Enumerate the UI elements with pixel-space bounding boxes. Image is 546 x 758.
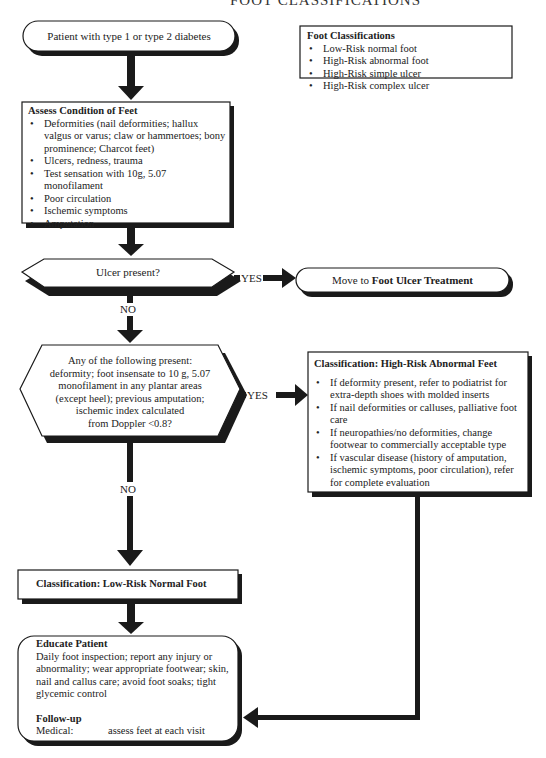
high-risk-item: If vascular disease (history of amputati… [314, 452, 524, 490]
low-risk-title: Classification: Low-Risk Normal Foot [36, 578, 236, 591]
decision-ulcer-question: Ulcer present? [44, 266, 212, 279]
followup-title: Follow-up [36, 713, 234, 726]
educate-content: Educate Patient Daily foot inspection; r… [36, 638, 234, 738]
assess-title: Assess Condition of Feet [28, 105, 226, 118]
ulcer-treatment-label: Move to Foot Ulcer Treatment [296, 274, 509, 287]
assess-item: Ischemic symptoms [28, 205, 226, 218]
assess-content: Assess Condition of Feet Deformities (na… [28, 105, 226, 230]
legend-item: Low-Risk normal foot [307, 43, 507, 56]
question-line: (except heel); previous amputation; [42, 393, 218, 406]
decision-ulcer-yes-label: YES [241, 272, 262, 285]
start-label: Patient with type 1 or type 2 diabetes [23, 30, 235, 43]
high-risk-content: Classification: High-Risk Abnormal Feet … [314, 358, 524, 489]
decision-ulcer-no-label: NO [120, 303, 136, 316]
ulcer-treatment-link[interactable]: Foot Ulcer Treatment [372, 274, 473, 286]
legend-item: High-Risk abnormal foot [307, 55, 507, 68]
legend-title: Foot Classifications [307, 30, 507, 43]
assess-item: Poor circulation [28, 193, 226, 206]
educate-title: Educate Patient [36, 638, 234, 651]
high-risk-item: If deformity present, refer to podiatris… [314, 377, 524, 402]
question-line: Any of the following present: [42, 355, 218, 368]
high-risk-item: If nail deformities or calluses, palliat… [314, 402, 524, 427]
legend-item: High-Risk complex ulcer [307, 80, 507, 93]
decision-risk-no-label: NO [120, 483, 136, 496]
educate-body: Daily foot inspection; report any injury… [36, 651, 234, 701]
assess-item: Test sensation with 10g, 5.07 monofilame… [28, 168, 226, 193]
high-risk-item: If neuropathies/no deformities, change f… [314, 427, 524, 452]
question-line: from Doppler <0.8? [42, 418, 218, 431]
assess-item: Ulcers, redness, trauma [28, 155, 226, 168]
question-line: deformity; foot insensate to 10 g, 5.07 [42, 368, 218, 381]
high-risk-title: Classification: High-Risk Abnormal Feet [314, 358, 524, 371]
question-line: ischemic index calculated [42, 405, 218, 418]
decision-risk-question: Any of the following present: deformity;… [42, 355, 218, 431]
followup-label: Medical: [36, 725, 108, 738]
legend-item: High-Risk simple ulcer [307, 68, 507, 81]
followup-row: Medical:assess feet at each visit [36, 725, 234, 738]
followup-value: assess feet at each visit [108, 725, 205, 736]
assess-item: Amputation [28, 218, 226, 231]
question-line: monofilament in any plantar areas [42, 380, 218, 393]
ulcer-treatment-prefix: Move to [332, 274, 369, 286]
decision-risk-yes-label: YES [247, 389, 268, 402]
legend: Foot Classifications Low-Risk normal foo… [307, 30, 507, 93]
assess-item: Deformities (nail deformities; hallux va… [28, 118, 226, 156]
